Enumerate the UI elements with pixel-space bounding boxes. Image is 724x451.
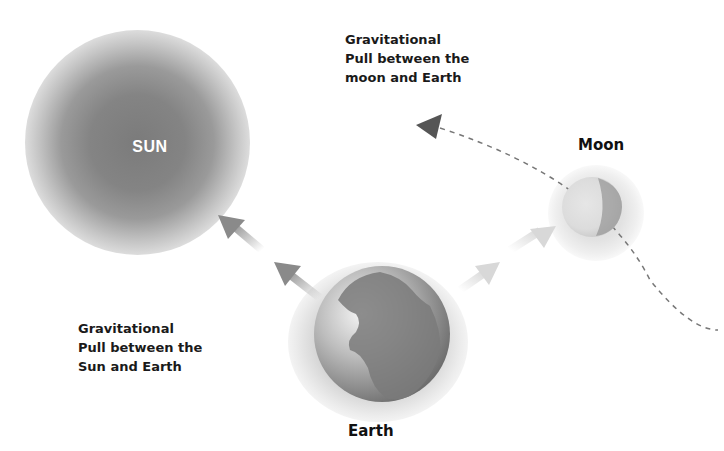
moon-label: Moon (578, 136, 624, 154)
orbit-arrowhead-icon (416, 114, 442, 139)
sun-pull-arrow-2 (274, 262, 320, 298)
earth-label: Earth (348, 422, 394, 440)
moon-pull-arrow-2 (510, 226, 556, 250)
caption-moon-earth: Gravitational Pull between the moon and … (345, 30, 469, 87)
moon-pull-arrow-1 (460, 262, 500, 290)
moon (562, 177, 622, 237)
caption-sun-earth: Gravitational Pull between the Sun and E… (78, 319, 202, 376)
sun-pull-arrow-1 (218, 215, 262, 250)
earth (314, 266, 450, 402)
